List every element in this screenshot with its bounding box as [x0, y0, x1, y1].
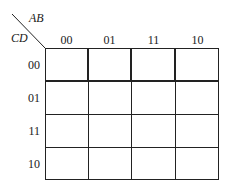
cell-r0-c0: [45, 48, 88, 81]
column-header-01: 01: [88, 34, 131, 46]
column-header-00: 00: [45, 34, 88, 46]
row-header-11: 11: [14, 125, 40, 137]
row-variables-label: CD: [11, 32, 28, 44]
column-header-11: 11: [132, 34, 175, 46]
kmap-grid: [45, 48, 219, 180]
row-header-10: 10: [14, 158, 40, 170]
cell-r0-c3: [175, 48, 219, 81]
row-header-00: 00: [14, 59, 40, 71]
column-variables-label: AB: [29, 12, 44, 24]
cell-r0-c1: [88, 48, 131, 81]
column-header-10: 10: [176, 34, 219, 46]
row-header-01: 01: [14, 92, 40, 104]
cell-r0-c2: [131, 48, 175, 81]
